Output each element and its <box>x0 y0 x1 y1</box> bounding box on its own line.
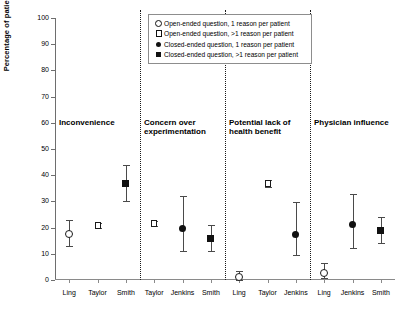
y-axis-tick <box>51 18 55 19</box>
marker-closed-square-icon[interactable] <box>377 227 384 234</box>
y-axis-tick-label: 50 <box>29 145 49 152</box>
marker-open-square-icon[interactable] <box>265 180 271 187</box>
y-axis-tick-label: 100 <box>29 14 49 21</box>
legend-label: Closed-ended question, >1 reason per pat… <box>164 51 298 58</box>
x-axis-tick <box>268 280 269 283</box>
y-axis-tick-label: 60 <box>29 119 49 126</box>
y-axis-tick-label: 10 <box>29 250 49 257</box>
marker-closed-circle-icon[interactable] <box>292 231 299 238</box>
error-bar-cap-lower <box>350 248 357 249</box>
y-axis-tick-label: 0 <box>29 276 49 283</box>
legend-marker-closed-circle-icon <box>153 42 164 47</box>
x-axis-tick <box>183 280 184 283</box>
error-bar-cap-lower <box>265 187 272 188</box>
x-axis-tick <box>154 280 155 283</box>
error-bar-cap-upper <box>123 165 130 166</box>
x-axis-tick <box>211 280 212 283</box>
error-bar-cap-lower <box>208 251 215 252</box>
marker-closed-square-icon[interactable] <box>207 235 214 242</box>
error-bar-cap-lower <box>66 246 73 247</box>
legend-item: Closed-ended question, >1 reason per pat… <box>153 50 307 61</box>
group-title: Inconvenience <box>59 118 138 128</box>
group-title: Concern over experimentation <box>144 118 223 137</box>
group-divider <box>140 10 141 280</box>
marker-closed-square-icon[interactable] <box>122 180 129 187</box>
group-title: Physician influence <box>314 118 393 128</box>
legend-label: Open-ended question, >1 reason per patie… <box>164 30 294 37</box>
y-axis-tick <box>51 201 55 202</box>
y-axis-tick <box>51 97 55 98</box>
error-bar-cap-lower <box>123 201 130 202</box>
y-axis-tick-label: 20 <box>29 224 49 231</box>
marker-open-square-icon[interactable] <box>95 222 101 229</box>
x-axis-tick <box>324 280 325 283</box>
y-axis-tick <box>51 280 55 281</box>
y-axis-tick <box>51 149 55 150</box>
x-axis-tick <box>126 280 127 283</box>
error-bar-cap-upper <box>378 217 385 218</box>
marker-open-circle-icon[interactable] <box>320 269 328 277</box>
legend: Open-ended question, 1 reason per patien… <box>148 14 312 64</box>
legend-item: Open-ended question, 1 reason per patien… <box>153 18 307 29</box>
legend-item: Open-ended question, >1 reason per patie… <box>153 29 307 40</box>
error-bar-line <box>296 202 297 255</box>
error-bar-cap-upper <box>180 196 187 197</box>
y-axis-tick <box>51 228 55 229</box>
y-axis-tick <box>51 254 55 255</box>
x-axis-tick <box>381 280 382 283</box>
chart-container: Percentage of patients 01020304050607080… <box>0 0 411 313</box>
group-title: Potential lack of health benefit <box>229 118 308 137</box>
marker-open-square-icon[interactable] <box>151 220 157 227</box>
legend-marker-closed-square-icon <box>153 52 164 57</box>
marker-closed-circle-icon[interactable] <box>179 225 186 232</box>
error-bar-cap-lower <box>293 255 300 256</box>
legend-marker-open-circle-icon <box>153 20 164 27</box>
error-bar-line <box>183 196 184 251</box>
error-bar-cap-upper <box>293 202 300 203</box>
error-bar-cap-upper <box>236 271 243 272</box>
x-axis-tick <box>296 280 297 283</box>
error-bar-cap-upper <box>208 225 215 226</box>
legend-label: Open-ended question, 1 reason per patien… <box>164 20 290 27</box>
y-axis-tick <box>51 123 55 124</box>
error-bar-cap-upper <box>321 263 328 264</box>
y-axis-tick <box>51 70 55 71</box>
y-axis-tick-label: 40 <box>29 171 49 178</box>
error-bar-cap-lower <box>180 251 187 252</box>
y-axis-line <box>55 18 56 280</box>
legend-marker-open-square-icon <box>153 30 164 37</box>
error-bar-cap-upper <box>66 220 73 221</box>
x-axis-tick-label: Smith <box>359 289 403 297</box>
marker-open-circle-icon[interactable] <box>65 230 73 238</box>
error-bar-cap-lower <box>378 243 385 244</box>
x-axis-tick <box>98 280 99 283</box>
y-axis-tick-label: 90 <box>29 40 49 47</box>
y-axis-tick <box>51 175 55 176</box>
error-bar-cap-upper <box>350 194 357 195</box>
y-axis-title: Percentage of patients <box>2 0 11 90</box>
x-axis-tick <box>69 280 70 283</box>
y-axis-tick-label: 30 <box>29 197 49 204</box>
y-axis-tick-label: 80 <box>29 66 49 73</box>
legend-label: Closed-ended question, 1 reason per pati… <box>164 41 294 48</box>
error-bar-cap-lower <box>321 278 328 279</box>
y-axis-tick-label: 70 <box>29 93 49 100</box>
y-axis-tick <box>51 44 55 45</box>
x-axis-tick <box>353 280 354 283</box>
legend-item: Closed-ended question, 1 reason per pati… <box>153 39 307 50</box>
marker-closed-circle-icon[interactable] <box>349 221 356 228</box>
